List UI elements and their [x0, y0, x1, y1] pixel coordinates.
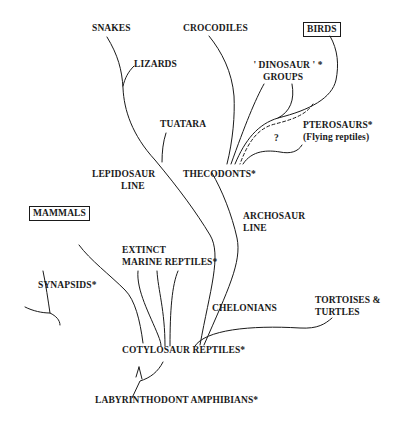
label-extinct-marine-1: EXTINCT — [122, 245, 166, 257]
label-labyrinthodont: LABYRINTHODONT AMPHIBIANS* — [95, 395, 258, 407]
arrow-labyrinthodont — [132, 362, 163, 398]
label-mammals: MAMMALS — [29, 206, 90, 221]
label-dinosaur-groups-2: GROUPS — [254, 72, 312, 84]
branch-marine-3 — [170, 271, 178, 346]
branch-dinosaur-2 — [278, 84, 293, 118]
branch-mammals — [43, 271, 50, 313]
label-snakes: SNAKES — [92, 23, 131, 35]
label-extinct-marine-2: MARINE REPTILES* — [122, 257, 217, 269]
label-tortoises-1: TORTOISES & — [315, 295, 381, 307]
branch-crocodiles — [209, 36, 234, 164]
branch-tuatara — [162, 133, 166, 162]
label-tortoises-2: TURTLES — [315, 307, 360, 319]
branch-lizards — [123, 66, 134, 86]
label-chelonians: CHELONIANS — [212, 303, 277, 315]
label-archosaur-1: ARCHOSAUR — [243, 211, 305, 223]
branch-birds — [235, 36, 338, 164]
branch-pterosaurs — [243, 145, 302, 164]
label-thecodonts: THECODONTS* — [183, 169, 256, 181]
branch-chelonians — [195, 318, 332, 346]
label-lizards: LIZARDS — [134, 59, 177, 71]
label-synapsids: SYNAPSIDS* — [38, 280, 97, 292]
label-birds: BIRDS — [303, 22, 341, 37]
label-lepidosaur-2: LINE — [121, 181, 145, 193]
label-dinosaur-groups-1: ' DINOSAUR ' * — [248, 60, 328, 72]
label-crocodiles: CROCODILES — [183, 23, 248, 35]
branch-synapsid-left — [25, 307, 60, 325]
label-tuatara: TUATARA — [160, 119, 206, 131]
label-pterosaurs-note: (Flying reptiles) — [303, 132, 369, 144]
branch-marine-1 — [138, 271, 161, 346]
label-pterosaurs: PTEROSAURS* — [303, 120, 373, 132]
label-lepidosaur-1: LEPIDOSAUR — [92, 169, 155, 181]
label-archosaur-2: LINE — [243, 223, 267, 235]
label-cotylosaur: COTYLOSAUR REPTILES* — [122, 345, 245, 357]
arrowhead — [136, 367, 142, 379]
label-question-mark: ? — [274, 133, 279, 145]
